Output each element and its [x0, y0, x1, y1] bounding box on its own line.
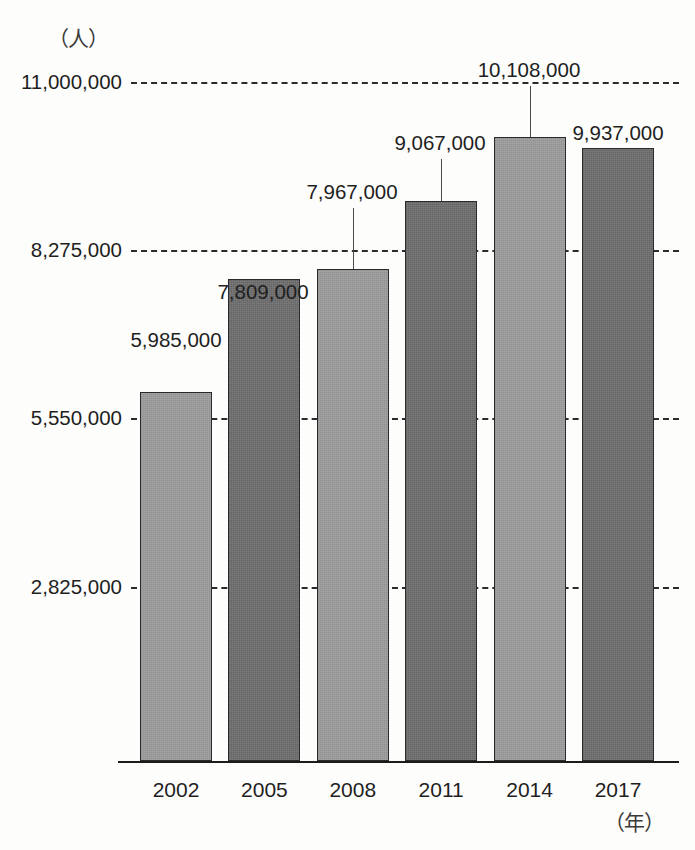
- value-leader-line: [353, 208, 354, 269]
- bar-2011[interactable]: [405, 201, 477, 761]
- y-axis-tick-label: 8,275,000: [2, 238, 122, 262]
- x-axis-tick-label-2008: 2008: [329, 778, 376, 802]
- x-axis-tick-label-2002: 2002: [153, 778, 200, 802]
- bar-value-label-2011: 9,067,000: [394, 131, 485, 155]
- bar-value-label-2008: 7,967,000: [306, 180, 397, 204]
- y-axis-tick-label: 5,550,000: [2, 406, 122, 430]
- y-axis-tick-label: 11,000,000: [2, 70, 122, 94]
- value-leader-line: [530, 86, 531, 137]
- gridline: [131, 82, 679, 84]
- plot-area: 2,825,0005,550,0008,275,00011,000,0005,9…: [0, 0, 695, 850]
- x-axis-tick-label-2014: 2014: [506, 778, 553, 802]
- y-axis-tick-label: 2,825,000: [2, 575, 122, 599]
- value-leader-line: [441, 159, 442, 201]
- bar-value-label-2005: 7,809,000: [217, 280, 308, 304]
- bar-value-label-2014: 10,108,000: [478, 58, 581, 82]
- x-axis-baseline: [118, 761, 679, 763]
- bar-2008[interactable]: [317, 269, 389, 761]
- bar-2017[interactable]: [582, 148, 654, 761]
- x-axis-tick-label-2011: 2011: [419, 778, 464, 802]
- bar-value-label-2002: 5,985,000: [130, 328, 221, 352]
- x-axis-tick-label-2005: 2005: [241, 778, 288, 802]
- bar-2014[interactable]: [494, 137, 566, 761]
- bar-chart: （人） （年） 2,825,0005,550,0008,275,00011,00…: [0, 0, 695, 850]
- bar-2002[interactable]: [140, 392, 212, 761]
- x-axis-tick-label-2017: 2017: [595, 778, 642, 802]
- bar-value-label-2017: 9,937,000: [572, 121, 663, 145]
- bar-2005[interactable]: [228, 279, 300, 761]
